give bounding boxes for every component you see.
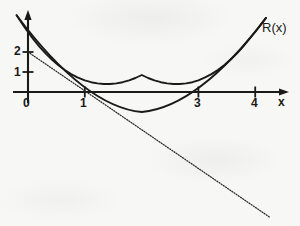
y-axis-arrowhead [24,10,31,20]
curve-label-r-of-x: R(x) [262,21,287,34]
x-axis [13,88,289,95]
math-figure-parabola-tangent: 0 1 3 4 1 2 x R(x) [0,0,300,226]
plot-canvas [0,0,300,226]
tangent-line-dotted [28,52,269,217]
parabola-curve-smooth [17,15,266,112]
x-tick-label-0: 0 [23,97,30,109]
y-tick-label-1: 1 [14,66,21,78]
parabola-curve-r-of-x [17,15,266,84]
x-tick-label-1: 1 [80,97,87,109]
x-tick-label-4: 4 [251,97,258,109]
y-tick-label-2: 2 [14,45,21,57]
x-tick-label-3: 3 [194,97,201,109]
x-axis-label: x [278,96,285,108]
